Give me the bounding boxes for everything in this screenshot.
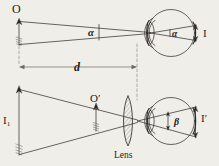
label-distance: d <box>74 60 81 74</box>
label-lens: Lens <box>114 150 133 160</box>
label-image-top: I <box>203 27 207 39</box>
label-object-bottom: I₁ <box>3 114 11 126</box>
label-virtual-object-bottom: O′ <box>90 92 100 104</box>
label-object-top: O <box>12 2 21 16</box>
label-angle-top-left: α <box>88 27 94 38</box>
optics-ray-diagram: O α α I d I₁ O′ β I′ Lens <box>0 0 219 166</box>
figure-background <box>0 0 219 166</box>
converging-lens <box>124 96 133 146</box>
label-image-bottom: I′ <box>201 112 207 124</box>
label-angle-top-eye: α <box>172 29 178 39</box>
label-angle-bottom-eye: β <box>173 116 180 127</box>
